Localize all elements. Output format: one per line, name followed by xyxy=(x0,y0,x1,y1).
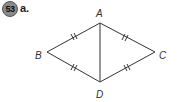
segment-ac xyxy=(100,23,155,52)
vertex-label-c: C xyxy=(159,50,167,61)
kite-diagram: A B C D xyxy=(0,0,181,102)
segment-bd xyxy=(47,52,100,82)
vertex-label-d: D xyxy=(96,89,103,100)
segment-cd xyxy=(100,52,155,82)
vertex-label-a: A xyxy=(95,8,103,19)
segment-ab xyxy=(47,23,100,52)
vertex-label-b: B xyxy=(35,50,42,61)
tick-marks-ab xyxy=(71,33,77,40)
